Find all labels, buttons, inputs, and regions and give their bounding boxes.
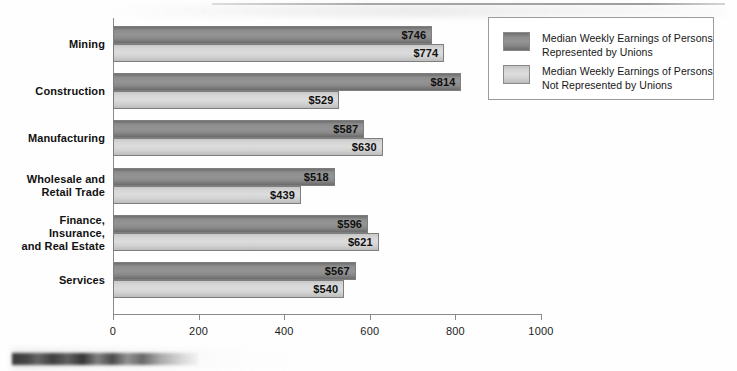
x-axis-tick (541, 314, 542, 320)
x-axis-tick-label: 0 (110, 325, 116, 337)
category-label-1: Mining (0, 38, 105, 51)
bar-value-label: $774 (413, 47, 438, 59)
x-axis-tick-label: 200 (189, 325, 208, 337)
bar-value-label: $596 (337, 218, 362, 230)
category-label-text: Wholesale and Retail Trade (0, 173, 105, 199)
x-axis-tick (370, 314, 371, 320)
bar-union: $567 (113, 262, 356, 280)
bar-value-label: $518 (304, 171, 329, 183)
legend-item-nonunion: Median Weekly Earnings of Persons Not Re… (503, 64, 713, 92)
page-top-scan-ghost (105, 5, 725, 17)
bar-union: $587 (113, 120, 364, 138)
x-axis-tick-label: 600 (360, 325, 379, 337)
x-axis-line (113, 314, 541, 315)
category-label-5: Finance, Insurance, and Real Estate (0, 214, 105, 253)
bar-nonunion: $630 (113, 138, 383, 156)
bar-union: $518 (113, 168, 335, 186)
x-axis-tick-label: 800 (446, 325, 465, 337)
x-axis-tick (455, 314, 456, 320)
bar-value-label: $621 (348, 236, 373, 248)
bar-chart-plot-area: 02004006008001000$746$774$814$529$587$63… (113, 18, 541, 314)
chart-legend: Median Weekly Earnings of Persons Repres… (488, 17, 714, 100)
legend-item-union: Median Weekly Earnings of Persons Repres… (503, 31, 713, 59)
bar-nonunion: $439 (113, 186, 301, 204)
category-label-text: Construction (0, 85, 105, 98)
bar-nonunion: $621 (113, 233, 379, 251)
bar-value-label: $630 (352, 141, 377, 153)
category-label-text: Manufacturing (0, 132, 105, 145)
x-axis-tick (284, 314, 285, 320)
bar-nonunion: $774 (113, 44, 444, 62)
x-axis-tick (199, 314, 200, 320)
category-label-text: Services (0, 274, 105, 287)
bar-value-label: $540 (313, 283, 338, 295)
legend-label-nonunion: Median Weekly Earnings of Persons Not Re… (542, 64, 713, 92)
bar-value-label: $567 (325, 265, 350, 277)
legend-swatch-nonunion-icon (503, 65, 530, 84)
bar-union: $746 (113, 26, 432, 44)
bar-value-label: $587 (333, 123, 358, 135)
category-label-text: Finance, Insurance, and Real Estate (0, 214, 105, 253)
bar-union: $596 (113, 215, 368, 233)
bar-value-label: $746 (401, 29, 426, 41)
page-top-rule (212, 3, 725, 5)
bar-nonunion: $540 (113, 280, 344, 298)
category-label-4: Wholesale and Retail Trade (0, 173, 105, 199)
bar-value-label: $814 (431, 76, 456, 88)
category-label-3: Manufacturing (0, 132, 105, 145)
bar-nonunion: $529 (113, 91, 339, 109)
x-axis-tick-label: 1000 (528, 325, 553, 337)
page-bottom-scan-artifact (12, 353, 198, 365)
legend-swatch-union-icon (503, 32, 530, 51)
chart-page: 02004006008001000$746$774$814$529$587$63… (0, 0, 737, 371)
x-axis-tick (113, 314, 114, 320)
category-label-6: Services (0, 274, 105, 287)
bar-value-label: $439 (270, 189, 295, 201)
legend-label-union: Median Weekly Earnings of Persons Repres… (542, 31, 713, 59)
bar-union: $814 (113, 73, 461, 91)
x-axis-tick-label: 400 (275, 325, 294, 337)
category-label-2: Construction (0, 85, 105, 98)
category-label-text: Mining (0, 38, 105, 51)
bar-value-label: $529 (309, 94, 334, 106)
